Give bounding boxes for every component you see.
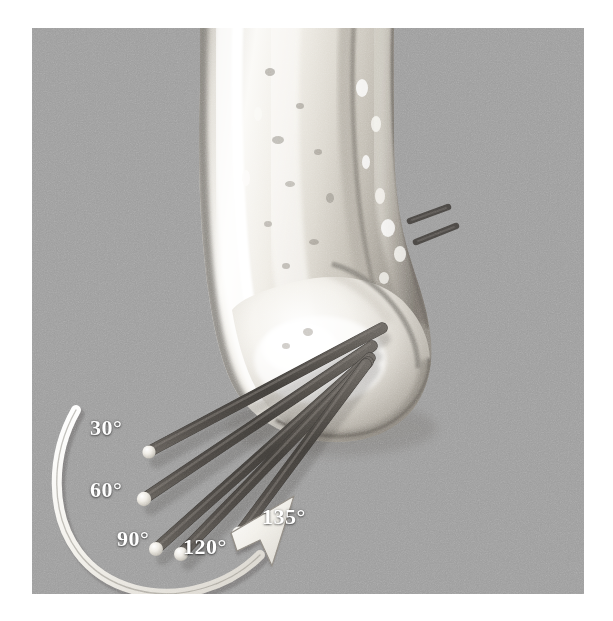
bone-and-pins-render	[32, 28, 584, 594]
protruding-pin-1	[410, 207, 448, 221]
pin-30-tip	[142, 445, 155, 458]
angle-label-120: 120°	[183, 536, 227, 558]
angle-label-90: 90°	[117, 528, 149, 550]
pin-90-tip	[149, 542, 163, 556]
angle-label-135: 135°	[262, 506, 306, 528]
angle-label-60: 60°	[90, 479, 122, 501]
pin-60-tip	[137, 492, 151, 506]
angle-label-30: 30°	[90, 417, 122, 439]
protruding-pin-2	[416, 226, 456, 242]
figure-panel: 30° 60° 90° 120° 135°	[32, 28, 584, 594]
scene-3d-render: 30° 60° 90° 120° 135°	[32, 28, 584, 594]
